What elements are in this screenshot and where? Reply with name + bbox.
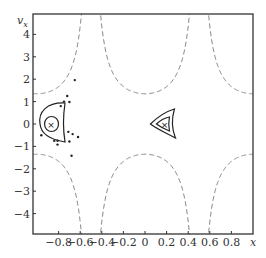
scatter-point (71, 133, 73, 135)
x-tick-label: 0 (142, 236, 149, 249)
scatter-point (56, 143, 58, 145)
scatter-point (56, 140, 58, 142)
y-tick-label: −1 (14, 140, 30, 153)
left-trap-contours: × (40, 103, 65, 142)
scatter-point (74, 79, 76, 81)
phase-space-chart: ×× −0.8−0.6−0.4−0.200.20.40.60.8 43210−1… (0, 0, 266, 258)
y-tick-label: 1 (23, 96, 30, 109)
x-tick-label: −0.2 (110, 236, 137, 249)
scatter-point (68, 101, 70, 103)
scatter-point (77, 136, 79, 138)
y-tick-label: 2 (23, 73, 30, 86)
scatter-point (66, 95, 68, 97)
scatter-point (60, 105, 62, 107)
right-trap-contours: × (150, 109, 175, 138)
x-tick-label: 0.8 (223, 236, 241, 249)
y-tick-label: 3 (23, 51, 30, 64)
center-x-marker-icon: × (161, 120, 169, 130)
y-tick-label: −4 (14, 208, 30, 221)
scatter-point (63, 100, 65, 102)
center-x-marker-icon: × (47, 120, 55, 130)
scatter-point (40, 134, 42, 136)
y-tick-label: 0 (23, 118, 30, 131)
scatter-point (67, 131, 69, 133)
x-tick-label: 0.6 (201, 236, 219, 249)
y-tick-label: −2 (14, 163, 30, 176)
plot-frame (33, 14, 253, 234)
scatter-point (68, 140, 70, 142)
y-axis-label: vx (17, 14, 28, 29)
x-tick-label: 0.4 (179, 236, 197, 249)
y-tick-label: −3 (14, 185, 30, 198)
plot-area: ×× (33, 0, 253, 258)
x-axis-label: x (250, 236, 257, 249)
scatter-point (70, 155, 72, 157)
scatter-point (53, 140, 55, 142)
x-tick-label: 0.2 (158, 236, 176, 249)
y-tick-label: 4 (23, 28, 30, 41)
